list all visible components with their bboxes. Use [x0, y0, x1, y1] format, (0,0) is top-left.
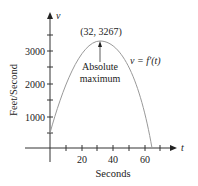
y-axis-title: Feet/Second	[8, 63, 19, 116]
y-axis-var: v	[56, 10, 61, 21]
curve-label: v = f′(t)	[130, 55, 161, 67]
y-axis-arrow-icon	[47, 12, 53, 19]
x-axis-arrow-icon	[170, 145, 177, 151]
velocity-chart: v t 3000 2000 1000 20 40 60 Seconds Feet…	[0, 0, 198, 186]
peak-point-label: (32, 3267)	[80, 26, 122, 38]
x-tick-label: 60	[140, 154, 150, 165]
x-axis-title: Seconds	[96, 168, 131, 179]
x-axis-var: t	[181, 142, 184, 153]
annotation-line-1: Absolute	[82, 61, 119, 72]
y-tick-label: 2000	[25, 79, 45, 90]
y-tick-label: 1000	[25, 112, 45, 123]
annotation-line-2: maximum	[80, 73, 121, 84]
x-tick-label: 40	[108, 154, 118, 165]
annotation-arrow-icon	[98, 41, 102, 47]
x-tick-label: 20	[77, 154, 87, 165]
y-tick-label: 3000	[25, 46, 45, 57]
